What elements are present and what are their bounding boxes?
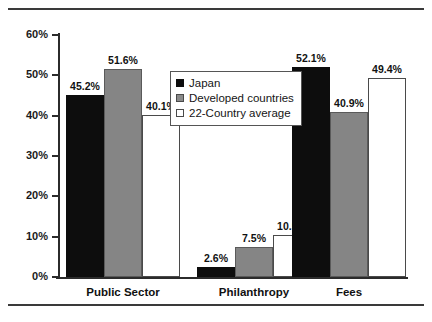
bar-developed-countries bbox=[235, 247, 273, 277]
top-divider-rule bbox=[8, 8, 424, 10]
legend-label-developed-countries: Developed countries bbox=[189, 92, 294, 104]
bar-chart-figure: 0%10%20%30%40%50%60% 45.2%51.6%40.1%2.6%… bbox=[0, 0, 432, 322]
legend-item-developed-countries: Developed countries bbox=[176, 91, 294, 105]
bar-value-label: 49.4% bbox=[360, 64, 414, 75]
y-axis-tick-label: 0% bbox=[4, 271, 48, 282]
x-axis-category-label: Public Sector bbox=[63, 286, 183, 298]
legend-swatch-icon-developed-countries bbox=[176, 94, 184, 102]
y-axis-tick-label: 50% bbox=[4, 69, 48, 80]
y-axis-tick-label: 10% bbox=[4, 231, 48, 242]
y-axis-tick-label-wrap: 0% bbox=[0, 271, 48, 282]
y-axis-tick-label: 40% bbox=[4, 110, 48, 121]
y-axis-tick-label-wrap: 20% bbox=[0, 190, 48, 201]
bar-developed-countries bbox=[330, 112, 368, 277]
bar-japan bbox=[197, 267, 235, 277]
bottom-divider-rule bbox=[8, 304, 424, 306]
bar-22-country-average bbox=[142, 115, 180, 277]
y-axis-tick-label-wrap: 30% bbox=[0, 150, 48, 161]
legend-swatch-icon-japan bbox=[176, 79, 184, 87]
legend-swatch-icon-22-country-average bbox=[176, 109, 184, 117]
y-axis-tick-label-wrap: 50% bbox=[0, 69, 48, 80]
y-axis-tick-label: 30% bbox=[4, 150, 48, 161]
y-axis-tick-label-wrap: 60% bbox=[0, 29, 48, 40]
y-axis-tick-label: 20% bbox=[4, 190, 48, 201]
y-axis-tick-label-wrap: 10% bbox=[0, 231, 48, 242]
bar-japan bbox=[66, 95, 104, 277]
bar-developed-countries bbox=[104, 69, 142, 277]
legend-label-japan: Japan bbox=[189, 77, 220, 89]
bar-value-label: 51.6% bbox=[96, 55, 150, 66]
y-axis-tick-label: 60% bbox=[4, 29, 48, 40]
y-axis-tick-label-wrap: 40% bbox=[0, 110, 48, 121]
legend-item-japan: Japan bbox=[176, 76, 294, 90]
bar-22-country-average bbox=[368, 78, 406, 277]
x-axis-line bbox=[56, 277, 408, 279]
x-axis-category-label: Fees bbox=[289, 286, 409, 298]
chart-legend: Japan Developed countries 22-Country ave… bbox=[170, 71, 302, 126]
legend-label-22-country-average: 22-Country average bbox=[189, 107, 291, 119]
bar-value-label: 52.1% bbox=[284, 53, 338, 64]
legend-item-22-country-average: 22-Country average bbox=[176, 106, 294, 120]
